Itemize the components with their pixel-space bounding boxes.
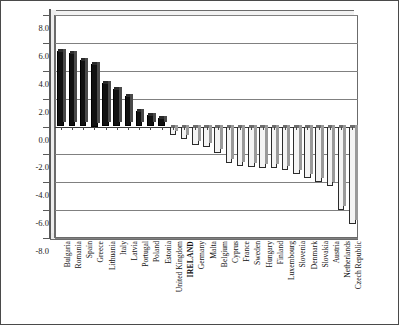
x-axis-tick (184, 127, 185, 130)
y-axis-tick-label: 8.0 (5, 24, 49, 33)
x-axis-category-label: Poland (153, 241, 161, 262)
x-axis-tick (263, 127, 264, 130)
x-axis-category-label: France (243, 241, 251, 262)
x-axis-category-label: Belgium (221, 241, 229, 267)
y-axis-tick-label: 4.0 (5, 80, 49, 89)
y-axis-labels: 8.06.04.02.00.0-2.0-4.0-6.0-8.0 (1, 15, 49, 245)
y-axis-tick (43, 238, 49, 239)
bar-side-face (310, 125, 313, 175)
plot-area (55, 15, 358, 238)
x-axis-category-label: Netherlands (344, 241, 352, 278)
x-axis-tick (150, 127, 151, 130)
x-axis-tick (173, 127, 174, 130)
bar (69, 53, 76, 127)
bar (91, 64, 98, 127)
x-axis-tick (319, 127, 320, 130)
x-axis-category-label: Estonia (165, 241, 173, 264)
bar-side-face (186, 125, 189, 136)
bar-side-face (63, 49, 66, 122)
bar (136, 111, 143, 126)
x-axis-category-label: Italy (120, 241, 128, 255)
bar (237, 127, 244, 166)
y-axis-tick (43, 71, 49, 72)
bar-side-face (108, 81, 111, 122)
bar-side-face (97, 62, 100, 123)
bar-side-face (355, 125, 358, 221)
x-axis-category-label: Sweden (254, 241, 262, 265)
x-axis-tick (240, 127, 241, 130)
y-axis-tick-label: 0.0 (5, 136, 49, 145)
x-axis-tick (207, 127, 208, 130)
y-axis-tick (43, 154, 49, 155)
bar (57, 51, 64, 126)
x-axis-category-label: Czech Republic (355, 241, 363, 289)
bar-side-face (153, 113, 156, 123)
x-axis-tick (229, 127, 230, 130)
y-axis-tick-label: 2.0 (5, 108, 49, 117)
y-axis-spine (49, 9, 51, 239)
x-axis-category-label: Luxembourg (288, 241, 296, 280)
x-axis-labels: BulgariaRomaniaSpainGreeceLithuaniaItaly… (55, 241, 358, 325)
y-axis-tick-label: -8.0 (5, 247, 49, 256)
x-axis-category-label: Slovakia (322, 241, 330, 268)
x-axis-tick (83, 127, 84, 130)
x-axis-tick (162, 127, 163, 130)
bar-side-face (254, 125, 257, 163)
bar-top-face (92, 62, 97, 65)
x-axis-tick (139, 127, 140, 130)
x-axis-category-label: Austria (333, 241, 341, 263)
y-axis-tick (43, 182, 49, 183)
x-axis-category-label: Finland (277, 241, 285, 264)
bar-side-face (85, 58, 88, 123)
bar-top-face (137, 109, 142, 112)
bar-top-face (148, 113, 153, 116)
chart-screenshot: 8.06.04.02.00.0-2.0-4.0-6.0-8.0 Bulgaria… (0, 0, 399, 325)
bar-side-face (175, 125, 178, 131)
bar-top-face (126, 94, 131, 97)
x-axis-tick (341, 127, 342, 130)
bar-side-face (74, 51, 77, 123)
x-axis-tick (285, 127, 286, 130)
bar (125, 96, 132, 127)
bar-top-face (103, 81, 108, 84)
bar (248, 127, 255, 167)
bar-side-face (130, 94, 133, 123)
x-axis-tick (307, 127, 308, 130)
bar (349, 127, 356, 225)
y-axis-tick (43, 43, 49, 44)
bar-side-face (332, 125, 335, 183)
bar-side-face (198, 125, 201, 141)
bar-side-face (321, 125, 324, 179)
bar (259, 127, 266, 169)
bar (80, 60, 87, 127)
y-axis-tick (43, 127, 49, 128)
bar (338, 127, 345, 211)
x-axis-category-label: Latvia (131, 241, 139, 260)
bar-side-face (299, 125, 302, 170)
bar (147, 115, 154, 127)
bar-side-face (231, 125, 234, 159)
bar-side-face (141, 109, 144, 122)
bar-series (55, 15, 358, 238)
bar-side-face (220, 125, 223, 149)
x-axis-tick (195, 127, 196, 130)
x-axis-tick (72, 127, 73, 130)
x-axis-tick (296, 127, 297, 130)
x-axis-tick (128, 127, 129, 130)
bar (102, 83, 109, 126)
x-axis-category-label: Portugal (142, 241, 150, 267)
x-axis-tick (94, 127, 95, 130)
x-axis-category-label: Malta (210, 241, 218, 259)
x-axis-tick (61, 127, 62, 130)
gridline (55, 238, 358, 239)
y-axis-tick (43, 99, 49, 100)
bar-top-face (70, 51, 75, 54)
y-axis-tick-label: 6.0 (5, 52, 49, 61)
bar (327, 127, 334, 187)
x-axis-tick (251, 127, 252, 130)
bar-side-face (242, 125, 245, 162)
bar-side-face (276, 125, 279, 165)
x-axis-category-label: United Kingdom (176, 241, 184, 292)
bar (282, 127, 289, 170)
x-axis-category-label: Greece (97, 241, 105, 263)
